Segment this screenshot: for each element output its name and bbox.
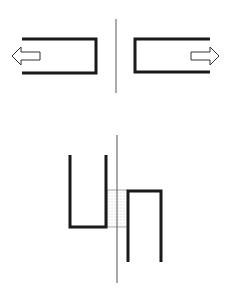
left-arrow-icon (12, 47, 40, 65)
u-shape (70, 155, 106, 227)
n-shape (128, 191, 161, 262)
right-arrow-icon (191, 47, 219, 65)
bottom-panel (70, 135, 161, 283)
diagram-canvas (0, 0, 225, 295)
top-panel (12, 19, 219, 93)
